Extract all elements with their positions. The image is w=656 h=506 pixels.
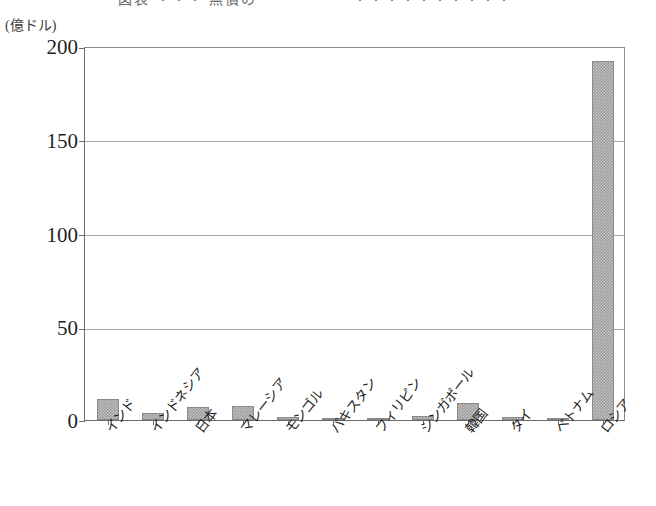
bar-ロシア	[592, 61, 614, 420]
y-tick-mark-100	[79, 235, 85, 236]
plot-area	[84, 47, 625, 421]
gridline-150	[85, 141, 624, 142]
y-tick-mark-50	[79, 329, 85, 330]
gridline-50	[85, 329, 624, 330]
x-axis-category-labels: インドインドネシア日本マレーシアモンゴルパキスタンフィリピンシンガポール韓国タイ…	[0, 421, 656, 506]
y-tick-mark-150	[79, 141, 85, 142]
y-tick-label-100: 100	[8, 225, 78, 246]
figure-caption-cropped: 図表 ・・・ 無償の ・・・・・・・・・・	[0, 0, 656, 9]
y-tick-mark-200	[79, 48, 85, 49]
figure-caption-text: 図表 ・・・ 無償の ・・・・・・・・・・	[118, 0, 513, 8]
bar-chart-figure: 図表 ・・・ 無償の ・・・・・・・・・・ (億ドル) 200 150 100 …	[0, 0, 656, 506]
y-tick-label-200: 200	[8, 37, 78, 58]
y-tick-label-50: 50	[8, 318, 78, 339]
gridline-100	[85, 235, 624, 236]
y-tick-label-150: 150	[8, 131, 78, 152]
